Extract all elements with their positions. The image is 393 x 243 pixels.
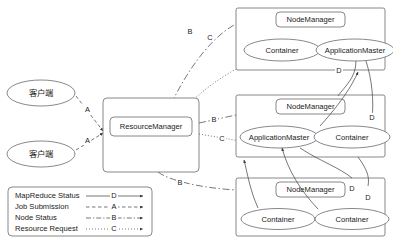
edge-label-a-2: A (85, 136, 90, 145)
legend-label-3: Resource Request (15, 224, 79, 233)
edge-label-c-middle: C (219, 134, 225, 143)
legend-label-0: MapReduce Status (15, 191, 80, 200)
edge-label-b-middle: B (212, 115, 217, 124)
yarn-architecture-diagram: A A B C B C B NodeManager (0, 0, 393, 243)
client-label-1: 客户端 (29, 88, 54, 98)
resourcemanager-label: ResourceManager (120, 122, 183, 131)
legend-label-1: Job Submission (15, 202, 69, 211)
edge-rm-to-nodemanager-bottom: B (158, 172, 236, 190)
legend-code-0: D (111, 191, 116, 200)
nodemanager-label-top: NodeManager (286, 15, 335, 24)
edge-label-a-1: A (85, 105, 90, 114)
edge-label-b-bottom: B (178, 178, 183, 187)
legend-code-2: B (112, 213, 117, 222)
applicationmaster-label-middle: ApplicationMaster (249, 133, 310, 142)
edge-client2-to-rm: A (76, 133, 103, 150)
nodemanager-label-bottom: NodeManager (286, 185, 335, 194)
node-cluster-middle: NodeManager ApplicationMaster Container (236, 95, 390, 157)
edge-label-d-3: D (349, 184, 354, 193)
container-label-top: Container (266, 46, 299, 55)
client-label-2: 客户端 (29, 149, 54, 159)
legend-code-1: A (112, 202, 117, 211)
edge-rm-to-applicationmaster-middle: C (199, 134, 240, 143)
edge-label-d-1: D (336, 66, 341, 75)
container-label-middle: Container (336, 133, 369, 142)
client-node-2: 客户端 (7, 141, 75, 167)
client-node-1: 客户端 (7, 80, 75, 106)
edge-label-b-top: B (188, 27, 193, 36)
legend-code-3: C (111, 224, 117, 233)
applicationmaster-label-top: ApplicationMaster (325, 46, 386, 55)
legend-label-2: Node Status (15, 213, 57, 222)
node-cluster-top: NodeManager Container ApplicationMaster (236, 8, 393, 70)
legend: MapReduce Status D Job Submission A Node… (8, 187, 152, 236)
edge-client1-to-rm: A (76, 96, 103, 131)
edge-label-d-2: D (369, 113, 374, 122)
container-label-bottom-right: Container (336, 215, 369, 224)
edge-label-c-top: C (207, 33, 213, 42)
node-cluster-bottom: NodeManager Container Container (236, 178, 389, 236)
container-label-bottom-left: Container (262, 215, 295, 224)
edge-label-d-4: D (365, 193, 370, 202)
resource-manager-group: ResourceManager (103, 98, 199, 172)
edge-rm-to-nodemanager-middle: B (199, 115, 236, 124)
nodemanager-label-middle: NodeManager (286, 102, 335, 111)
